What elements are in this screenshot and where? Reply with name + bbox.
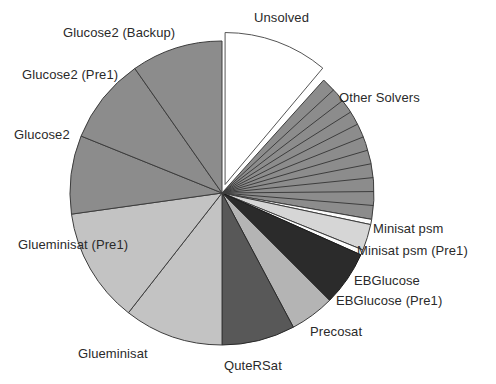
pie-label-qutersat: QuteRSat	[224, 359, 282, 373]
pie-label-glucose2-pre1: Glucose2 (Pre1)	[22, 68, 118, 82]
pie-label-ebglucose: EBGlucose	[354, 274, 420, 288]
pie-label-other-solvers: Other Solvers	[339, 91, 420, 105]
pie-label-minisat-psm-pre1: Minisat psm (Pre1)	[357, 244, 468, 258]
pie-label-ebglucose-pre1: EBGlucose (Pre1)	[336, 294, 442, 308]
pie-label-minisat-psm: Minisat psm	[373, 222, 443, 236]
pie-chart: UnsolvedOther SolversMinisat psmMinisat …	[0, 0, 496, 384]
pie-label-glueminisat-pre1: Glueminisat (Pre1)	[18, 238, 128, 252]
pie-label-glucose2-backup: Glucose2 (Backup)	[63, 26, 175, 40]
pie-label-precosat: Precosat	[310, 325, 362, 339]
pie-label-unsolved: Unsolved	[254, 11, 309, 25]
pie-chart-canvas	[0, 0, 496, 384]
pie-label-glucose2: Glucose2	[14, 128, 70, 142]
pie-label-glueminisat: Glueminisat	[78, 347, 148, 361]
